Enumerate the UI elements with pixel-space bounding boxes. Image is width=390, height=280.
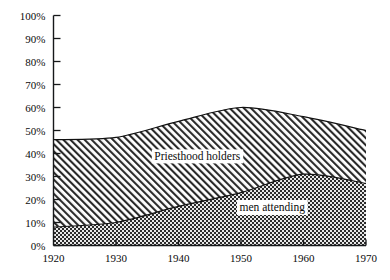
y-tick-label: 70% bbox=[25, 79, 45, 91]
y-tick-label: 90% bbox=[25, 33, 45, 45]
y-tick-label: 20% bbox=[25, 194, 45, 206]
y-tick-label: 0% bbox=[31, 240, 46, 252]
stacked-area-chart: 0%10%20%30%40%50%60%70%80%90%100% 192019… bbox=[0, 0, 390, 280]
y-tick-label: 100% bbox=[20, 10, 46, 22]
x-tick-label: 1930 bbox=[105, 252, 128, 264]
y-tick-label: 10% bbox=[25, 217, 45, 229]
x-tick-label: 1920 bbox=[43, 252, 66, 264]
y-tick-label: 30% bbox=[25, 171, 45, 183]
x-tick-label: 1960 bbox=[293, 252, 316, 264]
annotation-men-attending: men attending bbox=[237, 200, 308, 215]
y-tick-label: 80% bbox=[25, 56, 45, 68]
y-tick-label: 40% bbox=[25, 148, 45, 160]
chart-canvas: 0%10%20%30%40%50%60%70%80%90%100% 192019… bbox=[0, 0, 390, 280]
annotation-label-priesthood-holders: Priesthood holders bbox=[154, 150, 240, 162]
annotation-label-men-attending: men attending bbox=[240, 201, 306, 214]
y-tick-label: 60% bbox=[25, 102, 45, 114]
annotation-priesthood-holders: Priesthood holders bbox=[152, 149, 243, 163]
x-tick-label: 1970 bbox=[355, 252, 378, 264]
y-tick-label: 50% bbox=[25, 125, 45, 137]
x-tick-label: 1950 bbox=[230, 252, 253, 264]
x-tick-label: 1940 bbox=[168, 252, 191, 264]
